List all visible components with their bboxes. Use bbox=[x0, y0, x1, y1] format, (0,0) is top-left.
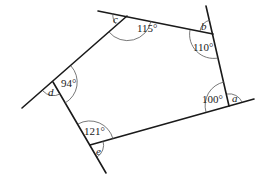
label-interior-110: 110° bbox=[193, 41, 214, 53]
label-exterior-e: e bbox=[96, 145, 101, 157]
label-exterior-d: d bbox=[48, 86, 54, 98]
label-interior-94: 94° bbox=[61, 77, 76, 89]
label-exterior-a: a bbox=[232, 92, 238, 104]
label-interior-121: 121° bbox=[84, 125, 105, 137]
label-exterior-c: c bbox=[113, 13, 118, 25]
label-interior-115: 115° bbox=[137, 22, 158, 34]
label-exterior-b: b bbox=[201, 20, 207, 32]
label-interior-100: 100° bbox=[202, 93, 223, 105]
pentagon-diagram: 115° 110° 100° 121° 94° a b c d e bbox=[0, 0, 269, 188]
edge-bottom bbox=[90, 99, 254, 145]
